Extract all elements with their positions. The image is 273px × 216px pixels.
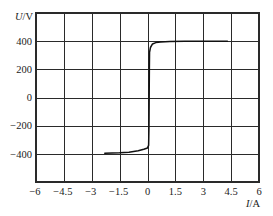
x-axis-unit: /A — [250, 198, 261, 209]
x-axis-label: I/A — [245, 198, 260, 209]
y-tick-label: −400 — [10, 149, 32, 160]
y-tick-label: 400 — [16, 36, 32, 47]
x-tick-label: 3 — [201, 186, 206, 197]
y-tick-label: 200 — [16, 64, 32, 75]
y-axis-label: U/V — [15, 11, 34, 22]
data-series — [105, 41, 228, 153]
u-i-curve — [105, 41, 228, 153]
y-tick-label: 0 — [27, 92, 32, 103]
x-tick-label: −1.5 — [109, 186, 128, 197]
y-axis-ticks: −400−2000200400 — [10, 36, 32, 160]
chart-canvas: −400−2000200400 −6−4.5−3−1.501.534.56 U/… — [0, 0, 273, 216]
x-tick-label: −6 — [29, 186, 40, 197]
x-tick-label: 1.5 — [169, 186, 182, 197]
chart: −400−2000200400 −6−4.5−3−1.501.534.56 U/… — [0, 0, 273, 216]
x-axis-ticks: −6−4.5−3−1.501.534.56 — [29, 186, 261, 197]
x-tick-label: 0 — [145, 186, 150, 197]
y-tick-label: −200 — [10, 120, 32, 131]
grid — [36, 13, 260, 183]
y-axis-unit: /V — [23, 11, 34, 22]
plot-frame — [36, 13, 259, 182]
x-tick-label: −4.5 — [53, 186, 72, 197]
x-tick-label: 4.5 — [225, 186, 238, 197]
x-tick-label: 6 — [256, 186, 261, 197]
x-tick-label: −3 — [85, 186, 96, 197]
